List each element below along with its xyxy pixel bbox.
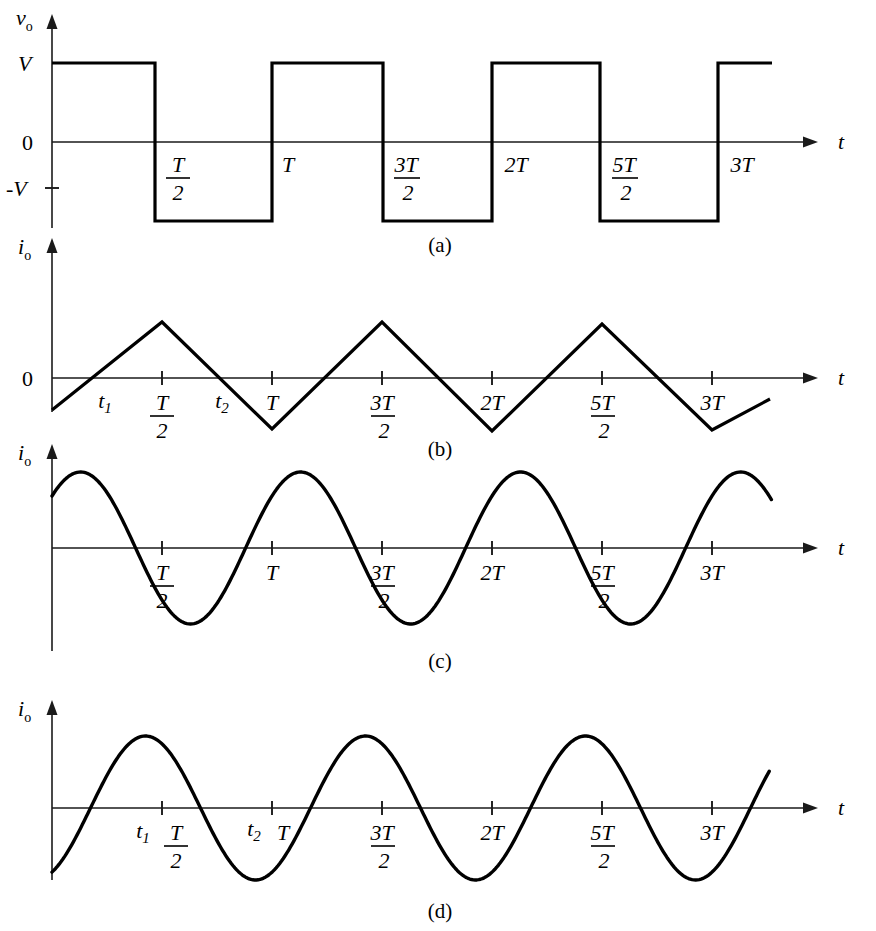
x-axis-arrowhead — [803, 543, 818, 554]
panel-d-svg: io t t1 t2 T 2 T 3T 2 — [0, 680, 876, 931]
panel-d-xtick-label-5T2: 5T 2 — [590, 820, 615, 873]
x-axis-arrowhead — [803, 803, 818, 814]
y-axis-arrowhead — [47, 14, 58, 29]
panel-a-ylabel-zero: 0 — [22, 130, 33, 155]
panel-d-xtick-label-T: T — [277, 820, 291, 845]
y-axis-arrowhead — [47, 700, 58, 715]
svg-text:T: T — [172, 152, 186, 177]
svg-text:2: 2 — [599, 848, 610, 873]
panel-d-y-axis — [47, 700, 58, 880]
panel-a-y-axis — [47, 14, 58, 228]
panel-a-x-axis — [52, 137, 818, 148]
svg-text:5T: 5T — [590, 820, 615, 845]
svg-text:5T: 5T — [612, 152, 637, 177]
panel-b-xtick-label-T: T — [266, 390, 280, 415]
svg-text:T: T — [156, 390, 170, 415]
panel-c-caption: (c) — [428, 649, 451, 673]
panel-a-xtick-label-2T: 2T — [504, 152, 529, 177]
panel-d-caption-wrap: (d) — [0, 898, 876, 926]
svg-text:T: T — [156, 560, 170, 585]
panel-a-xtick-label-5T2: 5T 2 — [612, 152, 638, 205]
panel-c-xtick-label-2T: 2T — [480, 560, 505, 585]
panel-c-ylabel: io — [18, 440, 31, 469]
panel-a-container: vo t V 0 -V T 2 T 3T 2 2T 5T 2 — [0, 0, 876, 260]
panel-a-xlabel: t — [838, 129, 845, 154]
panel-b-xlabel: t — [838, 365, 845, 390]
panel-b-annotation-t1: t1 — [98, 388, 112, 416]
panel-d-annotation-t1: t1 — [136, 818, 150, 846]
panel-d-xtick-label-T2: T 2 — [164, 820, 188, 873]
panel-a-xtick-label-T: T — [282, 152, 296, 177]
panel-d-container: io t t1 t2 T 2 T 3T 2 — [0, 680, 876, 931]
panel-b-y-axis — [47, 238, 58, 412]
svg-text:2: 2 — [403, 180, 414, 205]
panel-d-ylabel: io — [18, 696, 31, 725]
svg-text:T: T — [170, 820, 184, 845]
svg-text:3T: 3T — [369, 390, 395, 415]
panel-a-xtick-label-3T2: 3T 2 — [393, 152, 420, 205]
panel-a-ylabel: vo — [16, 5, 33, 34]
panel-c-svg: io t T 2 T 3T 2 2T 5T — [0, 436, 876, 676]
x-axis-arrowhead — [803, 137, 818, 148]
y-axis-arrowhead — [47, 444, 58, 459]
svg-text:5T: 5T — [590, 390, 615, 415]
panel-b-xtick-label-2T: 2T — [480, 390, 505, 415]
panel-b-svg: io 0 t t1 t2 T 2 T — [0, 232, 876, 464]
panel-c-xlabel: t — [838, 535, 845, 560]
panel-a-xtick-label-T2: T 2 — [166, 152, 190, 205]
panel-b-xtick-label-3T: 3T — [699, 390, 725, 415]
panel-d-caption: (d) — [428, 899, 453, 923]
x-axis-arrowhead — [803, 373, 818, 384]
panel-a-ylabel-negV: -V — [6, 176, 29, 201]
panel-d-xtick-label-2T: 2T — [480, 820, 505, 845]
panel-b-container: io 0 t t1 t2 T 2 T — [0, 232, 876, 464]
svg-text:2: 2 — [379, 848, 390, 873]
panel-b-annotation-t2: t2 — [215, 388, 229, 416]
panel-d-xtick-label-3T: 3T — [699, 820, 725, 845]
panel-b-ylabel-zero: 0 — [22, 366, 33, 391]
panel-a-ylabel-V: V — [18, 51, 34, 76]
svg-text:2: 2 — [171, 848, 182, 873]
y-axis-arrowhead — [47, 238, 58, 253]
svg-text:2: 2 — [173, 180, 184, 205]
svg-text:5T: 5T — [590, 560, 615, 585]
panel-d-annotation-t2: t2 — [247, 816, 261, 844]
svg-text:3T: 3T — [393, 152, 419, 177]
panel-c-container: io t T 2 T 3T 2 2T 5T — [0, 436, 876, 676]
waveform-figure: vo t V 0 -V T 2 T 3T 2 2T 5T 2 — [0, 0, 876, 931]
panel-d-x-axis — [52, 803, 818, 814]
panel-d-xtick-label-3T2: 3T 2 — [369, 820, 395, 873]
panel-a-svg: vo t V 0 -V T 2 T 3T 2 2T 5T 2 — [0, 0, 876, 260]
panel-d-xlabel: t — [838, 795, 845, 820]
panel-c-xtick-label-T: T — [266, 560, 280, 585]
panel-a-xtick-label-3T: 3T — [729, 152, 755, 177]
panel-c-x-axis — [52, 543, 818, 554]
panel-b-ylabel: io — [18, 234, 31, 263]
panel-c-xtick-label-3T: 3T — [699, 560, 725, 585]
panel-c-caption-wrap: (c) — [0, 648, 876, 676]
svg-text:3T: 3T — [369, 820, 395, 845]
svg-text:2: 2 — [621, 180, 632, 205]
